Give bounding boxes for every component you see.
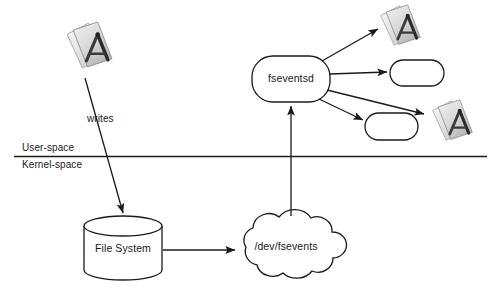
fsevents-architecture-diagram: fseventsd File System /dev/fsevents writ… (0, 0, 498, 292)
client-app-icon-1 (381, 5, 421, 46)
file-system-label: File System (84, 242, 162, 254)
client-box-1 (390, 60, 444, 86)
dev-fsevents-label: /dev/fsevents (232, 240, 340, 252)
fseventsd-label: fseventsd (252, 72, 330, 84)
textedit-app-icon (67, 22, 112, 68)
daemon-to-client-app-1-arrow (322, 29, 378, 61)
client-app-icon-2 (433, 100, 473, 141)
writes-edge-label: writes (87, 113, 114, 124)
daemon-to-client-box-2-arrow (319, 99, 363, 120)
kernel-space-label: Kernel-space (22, 159, 82, 170)
client-box-2 (365, 113, 418, 140)
user-space-label: User-space (22, 142, 74, 153)
daemon-to-client-box-1-arrow (330, 72, 387, 74)
writes-arrow (85, 78, 123, 213)
